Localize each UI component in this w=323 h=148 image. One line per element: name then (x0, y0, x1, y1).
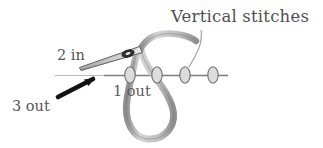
label-point-1-out: 1 out (113, 83, 151, 99)
stitch-diagram: Vertical stitches 2 in 1 out 3 out (0, 0, 323, 148)
stitch-oval (180, 67, 190, 83)
label-point-2-in: 2 in (57, 47, 85, 63)
arrow-icon (58, 78, 95, 97)
label-point-3-out: 3 out (12, 98, 50, 114)
thread-tail-icon (140, 34, 196, 50)
stitch-oval (152, 67, 162, 83)
label-vertical-stitches: Vertical stitches (171, 7, 309, 26)
stitch-oval (208, 67, 218, 83)
stitch-oval (125, 67, 135, 83)
